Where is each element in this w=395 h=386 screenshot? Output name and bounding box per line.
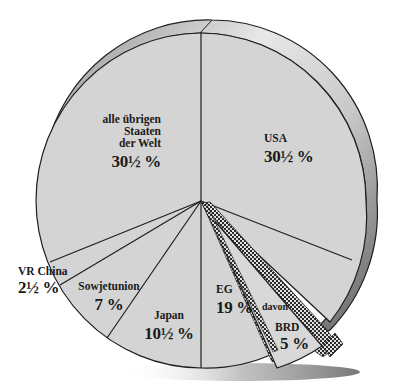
label-china: VR China 2½ % [18, 265, 68, 297]
label-rest: alle übrigen Staaten der Welt 30½ % [85, 113, 161, 171]
label-usa: USA 30½ % [264, 132, 314, 166]
label-brd-prefix: davon [262, 302, 288, 313]
label-sowjet: Sowjetunion 7 % [74, 280, 144, 314]
label-japan: Japan 10½ % [141, 309, 197, 343]
label-eg: EG 19 % [216, 283, 253, 317]
pie-chart [0, 0, 395, 386]
label-brd: BRD 5 % [275, 321, 309, 353]
ground-shadow [120, 363, 360, 381]
